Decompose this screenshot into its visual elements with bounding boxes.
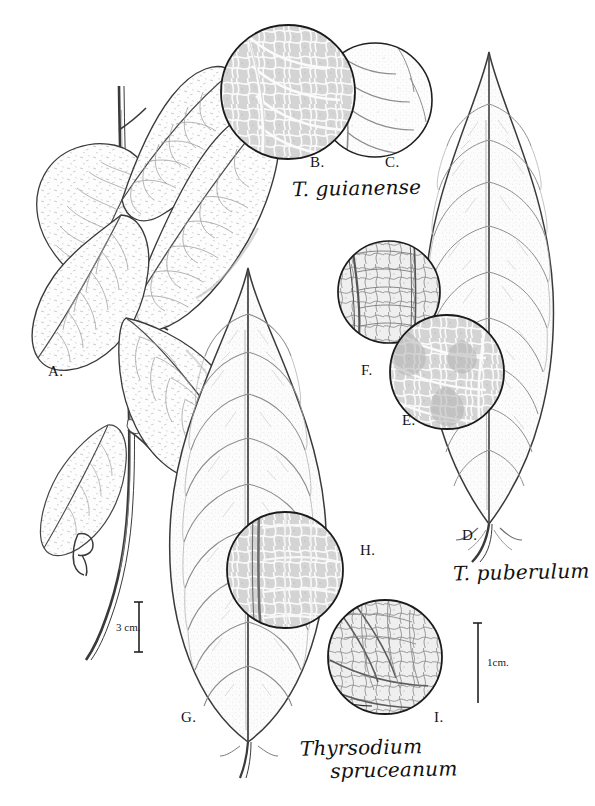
scale-label-3cm: 3 cm. xyxy=(116,621,140,633)
drawing-layer xyxy=(0,0,595,806)
figure-label-b: B. xyxy=(310,155,325,170)
detail-circle-I xyxy=(328,600,442,714)
branch-leaf-6-partial xyxy=(40,425,126,556)
scale-bar-1cm-mark xyxy=(473,623,482,703)
species-name-spruceanum-epithet: spruceanum xyxy=(300,757,458,783)
figure-label-d: D. xyxy=(462,528,477,543)
figure-label-g: G. xyxy=(181,710,196,725)
figure-label-i: I. xyxy=(434,710,444,725)
species-name-guianense: T. guianense xyxy=(292,177,422,201)
figure-label-c: C. xyxy=(385,155,400,170)
species-name-spruceanum: Thyrsodium spruceanum xyxy=(300,734,458,783)
figure-d-leaf xyxy=(425,52,554,562)
figure-label-h: H. xyxy=(360,543,375,558)
figure-label-f: F. xyxy=(361,363,373,378)
scale-label-1cm: 1cm. xyxy=(487,656,509,668)
species-name-puberulum: T. puberulum xyxy=(453,561,590,585)
figure-label-e: E. xyxy=(402,413,416,428)
illustration-plate: A. B. C. D. E. F. G. H. I. T. guianense … xyxy=(0,0,595,806)
figure-label-a: A. xyxy=(48,364,63,379)
